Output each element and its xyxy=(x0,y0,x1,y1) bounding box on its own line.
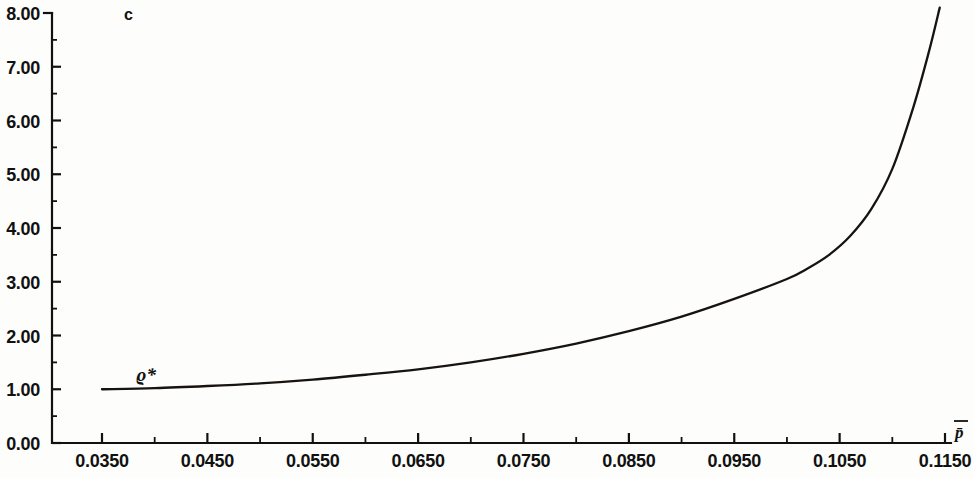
panel-label-c: c xyxy=(124,6,133,23)
x-axis-label-text: p̄ xyxy=(953,423,964,442)
x-tick-label: 0.0350 xyxy=(75,451,129,471)
x-axis-tick-group xyxy=(102,433,945,443)
y-tick-label: 4.00 xyxy=(6,219,40,239)
line-chart: 0.001.002.003.004.005.006.007.008.00 0.0… xyxy=(0,0,974,478)
y-tick-label: 6.00 xyxy=(6,112,40,132)
x-axis-label: p̄ xyxy=(953,421,968,442)
x-tick-label: 0.0950 xyxy=(708,451,762,471)
y-tick-label: 1.00 xyxy=(6,380,40,400)
x-tick-label: 0.0650 xyxy=(391,451,445,471)
y-tick-label: 3.00 xyxy=(6,273,40,293)
curve-label-rho-star: ϱ* xyxy=(136,364,156,385)
y-tick-label: 5.00 xyxy=(6,165,40,185)
x-tick-label: 0.0450 xyxy=(181,451,235,471)
x-tick-label: 0.1050 xyxy=(813,451,867,471)
data-curve-rho-star xyxy=(102,8,940,390)
y-tick-label: 8.00 xyxy=(6,4,40,24)
x-axis-tick-labels: 0.03500.04500.05500.06500.07500.08500.09… xyxy=(75,451,971,471)
y-tick-label: 2.00 xyxy=(6,327,40,347)
y-tick-label: 0.00 xyxy=(6,434,40,454)
y-axis-tick-labels: 0.001.002.003.004.005.006.007.008.00 xyxy=(6,4,40,454)
x-tick-label: 0.0850 xyxy=(602,451,656,471)
x-tick-label: 0.0550 xyxy=(286,451,340,471)
axis-spines xyxy=(44,13,951,443)
y-tick-label: 7.00 xyxy=(6,58,40,78)
x-tick-label: 0.1150 xyxy=(919,451,972,471)
y-axis-tick-group xyxy=(52,40,61,443)
x-tick-label: 0.0750 xyxy=(497,451,551,471)
figure-panel-c: 0.001.002.003.004.005.006.007.008.00 0.0… xyxy=(0,0,974,478)
